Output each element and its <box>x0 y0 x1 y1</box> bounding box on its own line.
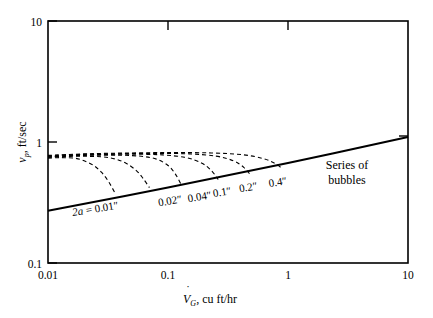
svg-text:vp, ft/sec: vp, ft/sec <box>15 121 31 162</box>
xtick-label-0.1: 0.1 <box>161 269 176 281</box>
curve-label-2a-0.1-: 0.1″ <box>212 184 232 199</box>
series-path-2 <box>48 156 149 187</box>
xtick-label-1: 1 <box>285 269 291 281</box>
figure-container: 10 1 0.1 0.01 0.1 1 10 2a = 0.01″0.02″0.… <box>0 0 433 318</box>
y-axis-label: vp, ft/sec <box>15 121 31 162</box>
series-path-3 <box>48 155 181 184</box>
series-of-bubbles-label-line2: bubbles <box>328 173 366 187</box>
xtick-label-10: 10 <box>402 269 414 281</box>
plot-frame <box>48 21 408 263</box>
ytick-label-1: 1 <box>36 137 42 149</box>
ytick-label-10: 10 <box>31 16 43 28</box>
log-log-chart: 10 1 0.1 0.01 0.1 1 10 2a = 0.01″0.02″0.… <box>0 0 433 318</box>
series-path-4 <box>48 154 218 179</box>
x-axis-rest: , cu ft/hr <box>196 292 237 306</box>
xtick-label-0.01: 0.01 <box>38 269 58 281</box>
series-of-bubbles-label-line1: Series of <box>326 158 368 172</box>
x-axis-dot-accent: ˙ <box>186 283 190 297</box>
axis-ticks <box>48 21 408 263</box>
curve-label-2a-0.04-: 0.04″ <box>187 189 212 205</box>
svg-text:VG, cu ft/hr: VG, cu ft/hr <box>183 292 237 308</box>
y-axis-rest: , ft/sec <box>15 121 29 153</box>
curve-label-2a-0.4-: 0.4″ <box>268 174 288 189</box>
x-axis-label: VG, cu ft/hr ˙ <box>183 283 237 308</box>
curve-label-2a-0.01-: 2a = 0.01″ <box>71 199 119 218</box>
series-path-1 <box>48 158 115 193</box>
curve-label-2a-0.2-: 0.2″ <box>238 179 258 194</box>
curve-label-2a-0.02-: 0.02″ <box>157 193 182 209</box>
